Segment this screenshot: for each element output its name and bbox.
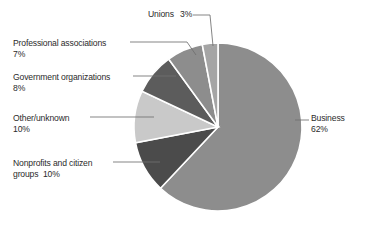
slice-label-government-organizations-value: 8% — [13, 83, 110, 94]
leader-line-unions — [193, 15, 213, 46]
slice-label-unions: Unions 3% — [148, 9, 192, 20]
slice-label-business-value: 62% — [311, 124, 345, 135]
slice-label-nonprofits-and-citizen-groups-line2: groups 10% — [13, 169, 92, 180]
slice-label-professional-associations-value: 7% — [13, 49, 106, 60]
slice-label-professional-associations: Professional associations 7% — [13, 38, 106, 61]
slice-label-government-organizations-text: Government organizations — [13, 72, 110, 83]
slice-label-government-organizations: Government organizations 8% — [13, 72, 110, 95]
slice-label-other-unknown-value: 10% — [13, 124, 69, 135]
slice-label-nonprofits-and-citizen-groups-value: 10% — [43, 169, 60, 179]
slice-label-other-unknown-text: Other/unknown — [13, 113, 69, 124]
pie-slices — [134, 43, 302, 211]
pie-chart-figure: Unions 3% Professional associations 7% G… — [0, 0, 371, 228]
slice-label-nonprofits-and-citizen-groups-text: Nonprofits and citizen — [13, 158, 92, 169]
slice-label-professional-associations-text: Professional associations — [13, 38, 106, 49]
slice-label-nonprofits-and-citizen-groups: Nonprofits and citizen groups 10% — [13, 158, 92, 181]
slice-label-other-unknown: Other/unknown 10% — [13, 113, 69, 136]
slice-label-business: Business 62% — [311, 113, 345, 136]
slice-label-unions-value: 3% — [180, 9, 192, 19]
slice-label-unions-text: Unions — [148, 9, 174, 19]
slice-label-nonprofits-groups-word: groups — [13, 169, 38, 179]
slice-label-business-text: Business — [311, 113, 345, 124]
